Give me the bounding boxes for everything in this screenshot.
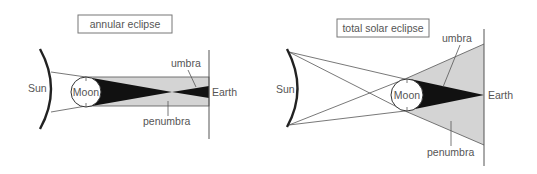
annular-ray-top [51,72,86,77]
annular-umbra-label: umbra [171,57,201,69]
total-umbra-label: umbra [442,32,472,44]
annular-ray-bottom [51,106,86,112]
annular-title-box: annular eclipse [78,15,172,33]
total-moon-label: Moon [394,89,420,101]
annular-penumbra-label: penumbra [143,115,190,127]
annular-title: annular eclipse [90,18,161,30]
annular-moon: Moon [71,77,101,107]
total-moon: Moon [391,79,423,111]
annular-sun-label: Sun [28,82,47,94]
total-title: total solar eclipse [342,22,423,34]
total-eclipse-panel: total solar eclipse Moon Sun Earth umbra [276,19,513,166]
total-earth-label: Earth [488,89,513,101]
annular-earth-label: Earth [212,86,237,98]
total-sun-label: Sun [276,83,295,95]
total-penumbra-label: penumbra [427,146,474,158]
eclipse-diagram: annular eclipse Moon Sun Earth umbra pen… [0,0,537,174]
total-ray-top-outer [289,52,405,79]
annular-eclipse-panel: annular eclipse Moon Sun Earth umbra pen… [28,15,237,139]
total-title-box: total solar eclipse [337,19,429,37]
annular-moon-label: Moon [73,86,99,98]
